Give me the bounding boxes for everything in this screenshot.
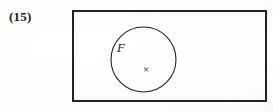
figure-container: (15) F × [0,0,273,112]
universal-set-rectangle [73,11,266,101]
set-label-F: F [116,40,126,55]
element-point-mark: × [143,63,149,75]
subset-circle-F [111,27,176,92]
set-diagram: F × [0,0,273,112]
